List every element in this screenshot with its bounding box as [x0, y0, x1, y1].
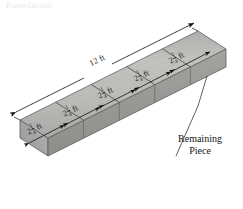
remaining-piece-callout: Remaining Piece	[160, 133, 240, 157]
board-diagram	[0, 0, 243, 209]
figure-container: Foundation	[0, 0, 243, 209]
remaining-piece-line2: Piece	[160, 145, 240, 157]
remaining-piece-line1: Remaining	[160, 133, 240, 145]
segment-dimension-arrows	[29, 52, 210, 143]
